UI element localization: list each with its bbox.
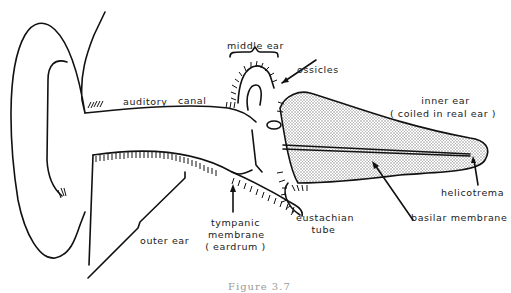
figure-caption: Figure 3.7 xyxy=(228,281,291,292)
label-inner-ear: inner ear xyxy=(398,95,493,106)
label-canal-text: canal xyxy=(178,95,207,106)
label-tympanic: tympanic xyxy=(208,217,263,228)
label-helicotrema: helicotrema xyxy=(441,187,504,198)
label-membrane: membrane xyxy=(208,229,263,240)
label-middle-ear: middle ear xyxy=(227,40,284,51)
label-auditory: auditory xyxy=(123,96,167,107)
label-inner-ear-note: ( coiled in real ear ) xyxy=(368,108,511,119)
label-basilar-membrane: basilar membrane xyxy=(411,212,507,223)
label-outer-ear: outer ear xyxy=(140,235,189,246)
label-ossicles: ossicles xyxy=(297,64,339,75)
label-tube: tube xyxy=(296,224,351,235)
tympanic-arrow-head xyxy=(230,184,236,192)
label-eustachian: eustachian xyxy=(296,212,354,223)
label-eardrum: ( eardrum ) xyxy=(204,241,267,252)
